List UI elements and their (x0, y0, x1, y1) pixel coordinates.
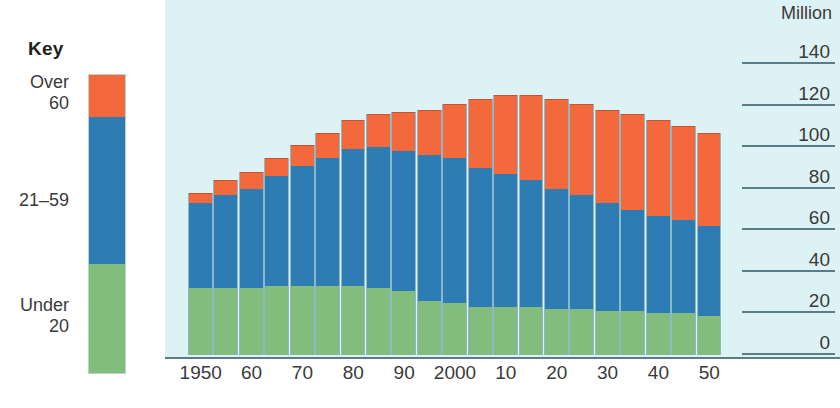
bar-segment-21-59 (418, 155, 441, 300)
bar-segment-21-59 (240, 189, 263, 289)
bar-segment-under-20 (418, 301, 441, 355)
bar-segment-under-20 (240, 288, 263, 355)
bar-2050 (697, 133, 722, 355)
bar-segment-under-20 (443, 303, 466, 355)
bar-segment-under-20 (672, 313, 695, 355)
chart-page: Key Over 60 21–59 Under 20 Million 14012… (0, 0, 840, 408)
legend-swatch-over-60 (89, 75, 125, 117)
bar-1950 (188, 193, 213, 355)
bar-1990 (391, 112, 416, 355)
bar-segment-over-60 (189, 193, 212, 203)
bar-segment-21-59 (392, 151, 415, 290)
bar-segment-21-59 (570, 195, 593, 309)
bar-segment-under-20 (647, 313, 670, 355)
bar-1980 (341, 120, 366, 355)
bar-2030 (595, 110, 620, 355)
chart-plot-area: Million 140120100806040200 1950607080902… (165, 0, 840, 408)
bar-1960 (239, 172, 264, 355)
bar-segment-over-60 (520, 95, 543, 180)
y-tick-label-40: 40 (809, 250, 830, 269)
bar-segment-under-20 (342, 286, 365, 355)
x-axis-labels: 19506070809020001020304050 (188, 362, 722, 396)
bar-segment-over-60 (240, 172, 263, 189)
bar-segment-under-20 (520, 307, 543, 355)
bar-segment-over-60 (545, 99, 568, 188)
bar-segment-21-59 (545, 189, 568, 310)
bar-segment-21-59 (469, 168, 492, 307)
bar-segment-under-20 (545, 309, 568, 355)
bar-segment-over-60 (570, 104, 593, 195)
legend-label-under-20: Under 20 (0, 295, 77, 336)
bar-segment-under-20 (316, 286, 339, 355)
y-gridline-120 (742, 104, 835, 106)
bar-segment-under-20 (698, 316, 721, 355)
bar-segment-over-60 (316, 133, 339, 158)
bar-segment-21-59 (596, 203, 619, 311)
bar-segment-under-20 (214, 288, 237, 355)
y-gridline-100 (742, 145, 835, 147)
bar-segment-21-59 (189, 203, 212, 288)
bar-segment-21-59 (342, 149, 365, 286)
y-tick-label-20: 20 (809, 291, 830, 310)
bar-segment-21-59 (520, 180, 543, 307)
x-tick-label-50: 50 (699, 362, 720, 384)
bar-segment-21-59 (494, 174, 517, 307)
bar-segment-under-20 (189, 288, 212, 355)
x-axis-line (165, 357, 840, 359)
bar-segment-over-60 (621, 114, 644, 210)
legend-title: Key (28, 38, 63, 60)
bar-segment-over-60 (647, 120, 670, 216)
y-gridline-60 (742, 228, 835, 230)
legend-swatch-21-59 (89, 117, 125, 265)
y-tick-label-140: 140 (798, 42, 830, 61)
bar-2020 (544, 99, 569, 355)
bar-segment-under-20 (291, 286, 314, 355)
x-tick-label-60: 60 (241, 362, 262, 384)
chart-legend: Key Over 60 21–59 Under 20 (0, 0, 165, 408)
bar-segment-under-20 (494, 307, 517, 355)
bar-2015 (519, 95, 544, 355)
bar-2035 (620, 114, 645, 355)
bar-segment-21-59 (214, 195, 237, 289)
x-tick-label-40: 40 (648, 362, 669, 384)
bar-2045 (671, 126, 696, 355)
x-tick-label-90: 90 (394, 362, 415, 384)
bar-1955 (213, 180, 238, 355)
y-axis: Million 140120100806040200 (740, 0, 840, 359)
bar-segment-over-60 (392, 112, 415, 151)
bar-segment-over-60 (418, 110, 441, 156)
bar-2040 (646, 120, 671, 355)
bar-segment-under-20 (469, 307, 492, 355)
x-tick-label-70: 70 (292, 362, 313, 384)
y-gridline-40 (742, 270, 835, 272)
bar-segment-under-20 (596, 311, 619, 355)
bar-segment-under-20 (570, 309, 593, 355)
bar-segment-21-59 (698, 226, 721, 315)
bar-1995 (417, 110, 442, 355)
bar-segment-over-60 (469, 99, 492, 168)
bar-segment-over-60 (214, 180, 237, 195)
bar-segment-over-60 (265, 158, 288, 177)
bar-2010 (493, 95, 518, 355)
bar-segment-over-60 (342, 120, 365, 149)
bar-segment-21-59 (647, 216, 670, 314)
x-tick-label-2000: 2000 (434, 362, 476, 384)
bar-segment-21-59 (443, 158, 466, 303)
bar-2005 (468, 99, 493, 355)
x-tick-label-20: 20 (546, 362, 567, 384)
bar-segment-under-20 (265, 286, 288, 355)
bar-1975 (315, 133, 340, 355)
bar-1985 (366, 114, 391, 355)
y-tick-label-100: 100 (798, 125, 830, 144)
y-gridline-140 (742, 62, 835, 64)
y-tick-label-120: 120 (798, 84, 830, 103)
bar-segment-over-60 (494, 95, 517, 174)
bar-segment-21-59 (672, 220, 695, 314)
bar-segment-under-20 (621, 311, 644, 355)
bar-segment-under-20 (392, 291, 415, 355)
y-gridline-20 (742, 311, 835, 313)
y-tick-label-80: 80 (809, 167, 830, 186)
bar-2000 (442, 104, 467, 356)
bar-2025 (569, 104, 594, 356)
bar-1965 (264, 158, 289, 355)
